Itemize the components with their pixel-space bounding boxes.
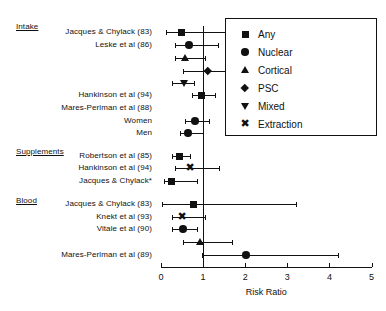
- marker-triangle-up: [196, 238, 204, 245]
- marker-diamond: [241, 84, 249, 92]
- ci-cap-lower: [172, 227, 173, 232]
- legend-marker-diamond-icon: [238, 82, 252, 94]
- legend-label: Nuclear: [258, 47, 292, 58]
- ci-cap-lower: [175, 166, 176, 171]
- marker-triangle-down: [180, 80, 188, 87]
- ci-cap-upper: [197, 227, 198, 232]
- legend-marker-triangle-up-icon: [238, 64, 252, 76]
- x-tick-label: 2: [235, 272, 255, 282]
- confidence-interval-line: [175, 45, 218, 46]
- legend-item-cortical[interactable]: Cortical: [238, 64, 292, 76]
- confidence-interval-line: [202, 255, 338, 256]
- x-tick-label: 4: [319, 272, 339, 282]
- ci-cap-upper: [232, 240, 233, 245]
- ci-cap-upper: [296, 202, 297, 207]
- legend: AnyNuclearCorticalPSCMixed✖Extraction: [225, 18, 377, 136]
- study-label: Mares-Perlman et al (88): [61, 103, 152, 112]
- marker-circle: [184, 129, 192, 137]
- legend-marker-circle-icon: [238, 46, 252, 58]
- study-label: Vitale et al (90): [97, 224, 152, 233]
- marker-square: [176, 153, 183, 160]
- marker-square: [198, 92, 205, 99]
- ci-cap-upper: [197, 179, 198, 184]
- x-tick-label: 5: [362, 272, 382, 282]
- x-axis-title: Risk Ratio: [161, 287, 372, 297]
- marker-circle: [179, 225, 187, 233]
- marker-triangle-down: [241, 103, 249, 110]
- x-tick: [372, 263, 373, 267]
- x-tick-label: 0: [151, 272, 171, 282]
- x-tick: [161, 263, 162, 267]
- confidence-interval-line: [162, 204, 296, 205]
- ci-cap-upper: [205, 56, 206, 61]
- legend-item-nuclear[interactable]: Nuclear: [238, 46, 292, 58]
- marker-square: [168, 178, 175, 185]
- legend-marker-square-icon: [238, 28, 252, 40]
- study-label: Men: [136, 128, 152, 137]
- section-header: Blood: [16, 196, 37, 205]
- legend-label: Extraction: [258, 119, 302, 130]
- x-tick-label: 3: [277, 272, 297, 282]
- ci-cap-upper: [215, 93, 216, 98]
- ci-cap-upper: [205, 215, 206, 220]
- ci-cap-lower: [192, 93, 193, 98]
- ci-cap-lower: [172, 215, 173, 220]
- legend-item-any[interactable]: Any: [238, 28, 275, 40]
- study-label: Knekt et al (93): [96, 212, 152, 221]
- ci-cap-upper: [190, 154, 191, 159]
- ci-cap-lower: [183, 240, 184, 245]
- confidence-interval-line: [175, 58, 205, 59]
- x-tick: [245, 263, 246, 267]
- marker-diamond: [204, 67, 212, 75]
- x-tick: [203, 263, 204, 267]
- legend-item-mixed[interactable]: Mixed: [238, 100, 285, 112]
- ci-cap-lower: [172, 81, 173, 86]
- ci-cap-upper: [209, 119, 210, 124]
- marker-triangle-up: [181, 54, 189, 61]
- study-label: Jacques & Chylack (83): [65, 27, 152, 36]
- ci-cap-lower: [164, 179, 165, 184]
- x-tick-label: 1: [193, 272, 213, 282]
- ci-cap-upper: [203, 131, 204, 136]
- study-label: Mares-Perlman et al (89): [61, 250, 152, 259]
- marker-x: ✖: [184, 163, 196, 172]
- study-label: Robertson et al (85): [79, 151, 152, 160]
- marker-circle: [242, 251, 250, 259]
- ci-cap-upper: [194, 81, 195, 86]
- ci-cap-upper: [219, 166, 220, 171]
- section-header: Intake: [16, 22, 38, 31]
- study-label: Women: [124, 116, 152, 125]
- study-label: Leske et al (86): [95, 40, 152, 49]
- study-label: Hankinson et al (94): [78, 90, 152, 99]
- confidence-interval-line: [183, 242, 232, 243]
- ci-cap-lower: [162, 202, 163, 207]
- marker-x: ✖: [176, 212, 188, 221]
- ci-cap-lower: [180, 131, 181, 136]
- axis-line: [161, 267, 372, 268]
- study-label: Jacques & Chylack*: [79, 176, 152, 185]
- marker-circle: [191, 117, 199, 125]
- study-label: Jacques & Chylack (83): [65, 199, 152, 208]
- legend-item-psc[interactable]: PSC: [238, 82, 279, 94]
- ci-cap-lower: [172, 154, 173, 159]
- legend-marker-triangle-down-icon: [238, 100, 252, 112]
- legend-label: Cortical: [258, 65, 292, 76]
- legend-label: Any: [258, 29, 275, 40]
- ci-cap-lower: [166, 30, 167, 35]
- ci-cap-lower: [202, 253, 203, 258]
- legend-label: Mixed: [258, 101, 285, 112]
- ci-cap-upper: [338, 253, 339, 258]
- legend-item-extraction[interactable]: ✖Extraction: [238, 118, 302, 130]
- ci-cap-lower: [185, 119, 186, 124]
- marker-square: [242, 31, 249, 38]
- x-tick: [329, 263, 330, 267]
- marker-circle: [241, 48, 249, 56]
- legend-marker-x-icon: ✖: [238, 118, 252, 130]
- marker-circle: [185, 41, 193, 49]
- section-header: Supplements: [16, 147, 64, 156]
- forest-plot: IntakeSupplementsBloodJacques & Chylack …: [0, 0, 386, 311]
- marker-x: ✖: [239, 119, 251, 128]
- marker-triangle-up: [241, 66, 249, 73]
- ci-cap-lower: [183, 69, 184, 74]
- confidence-interval-line: [175, 168, 219, 169]
